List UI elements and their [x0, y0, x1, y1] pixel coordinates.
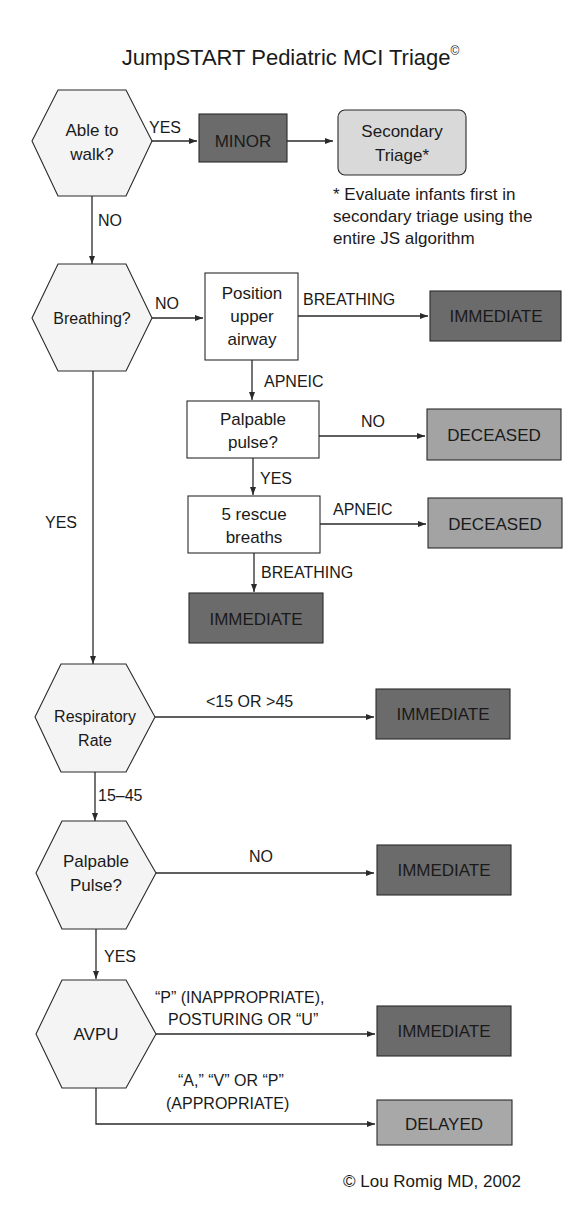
decision-able-to-walk [32, 90, 152, 196]
edge-label-pulse2-no: NO [249, 848, 273, 865]
immediate-4-label: IMMEDIATE [397, 861, 490, 880]
pulse1-label-2: pulse? [228, 433, 278, 452]
minor-label: MINOR [215, 132, 272, 151]
rescue-label-2: breaths [226, 528, 283, 547]
breathing-label: Breathing? [53, 310, 130, 327]
avpu-label: AVPU [73, 1025, 118, 1044]
triage-flowchart: Able to walk? MINOR Secondary Triage* Br… [0, 0, 581, 1212]
edge-label-pulse1-yes: YES [260, 470, 292, 487]
edge-label-walk-yes: YES [149, 119, 181, 136]
edge-label-breathing-yes: YES [45, 514, 77, 531]
edge-label-breathing-no: NO [155, 295, 179, 312]
position-label-2: upper [230, 307, 274, 326]
decision-palpable-pulse [36, 821, 156, 929]
immediate-5-label: IMMEDIATE [397, 1022, 490, 1041]
outcome-secondary-triage [338, 110, 466, 175]
edge-label-position-breathing: BREATHING [303, 291, 395, 308]
position-label-1: Position [222, 284, 282, 303]
edge-label-walk-no: NO [98, 212, 122, 229]
edge-label-avpu-delayed-2: (APPROPRIATE) [166, 1095, 289, 1112]
resp-label-2: Rate [78, 732, 112, 749]
edge-label-resp-normal: 15–45 [98, 787, 143, 804]
pulse2-label-1: Palpable [63, 852, 129, 871]
edge-label-pulse1-no: NO [361, 413, 385, 430]
pulse2-label-2: Pulse? [70, 876, 122, 895]
deceased-2-label: DECEASED [448, 515, 542, 534]
edge-label-pulse2-yes: YES [104, 948, 136, 965]
walk-label-1: Able to [66, 121, 119, 140]
edge-label-avpu-immediate-2: POSTURING OR “U” [168, 1011, 318, 1028]
position-label-3: airway [227, 330, 277, 349]
edge-label-avpu-immediate-1: “P” (INAPPROPRIATE), [155, 989, 325, 1006]
rescue-label-1: 5 rescue [221, 505, 286, 524]
delayed-label: DELAYED [405, 1115, 483, 1134]
edge-label-position-apneic: APNEIC [264, 373, 324, 390]
deceased-1-label: DECEASED [447, 426, 541, 445]
immediate-3-label: IMMEDIATE [396, 705, 489, 724]
footnote: * Evaluate infants first in secondary tr… [333, 184, 578, 250]
immediate-1-label: IMMEDIATE [449, 307, 542, 326]
secondary-label-2: Triage* [375, 146, 430, 165]
edge-label-rescue-breathing: BREATHING [261, 564, 353, 581]
edge-label-rescue-apneic: APNEIC [333, 501, 393, 518]
edge-label-resp-abnormal: <15 OR >45 [206, 693, 293, 710]
secondary-label-1: Secondary [361, 122, 443, 141]
walk-label-2: walk? [69, 145, 113, 164]
resp-label-1: Respiratory [54, 708, 136, 725]
immediate-2-label: IMMEDIATE [209, 610, 302, 629]
edge-label-avpu-delayed-1: “A,” “V” OR “P” [178, 1072, 284, 1089]
pulse1-label-1: Palpable [220, 410, 286, 429]
copyright: © Lou Romig MD, 2002 [343, 1172, 521, 1192]
